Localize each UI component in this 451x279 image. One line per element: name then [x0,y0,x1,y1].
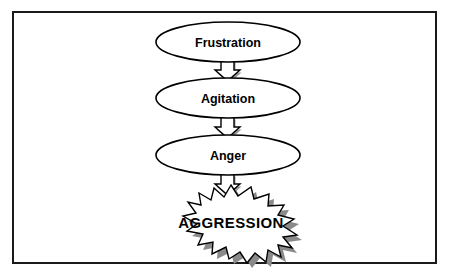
node-anger[interactable]: Anger [156,135,300,175]
node-aggression[interactable]: AGGRESSION [178,185,302,268]
node-agitation[interactable]: Agitation [156,78,300,118]
diagram-root: AGGRESSION Frustration Agitation Anger [0,0,451,279]
aggression-flow-diagram: AGGRESSION Frustration Agitation Anger [0,0,451,279]
node-frustration[interactable]: Frustration [156,22,300,62]
node-label-aggression: AGGRESSION [178,214,284,231]
node-label-agitation: Agitation [201,92,255,106]
node-label-frustration: Frustration [195,36,261,50]
node-label-anger: Anger [210,149,246,163]
